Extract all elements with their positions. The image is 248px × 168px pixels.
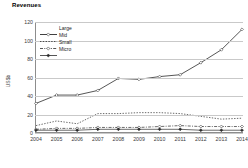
legend-item-mid[interactable]: Mid <box>40 31 92 38</box>
x-axis-tick: 2009 <box>133 136 145 142</box>
chart-container: Revenues 020406080100120 US$b 2004200520… <box>0 0 248 168</box>
gridline <box>35 22 243 23</box>
legend-swatch-icon <box>40 38 57 45</box>
legend-label: Mid <box>59 32 67 38</box>
y-axis-tick: 20 <box>5 112 33 118</box>
data-point-micro <box>158 128 161 131</box>
x-axis-tick: 2007 <box>92 136 104 142</box>
x-axis-tick: 2013 <box>216 136 228 142</box>
legend-item-large[interactable]: Large <box>40 24 92 31</box>
legend-item-micro[interactable]: Micro <box>40 45 92 52</box>
data-point-micro <box>138 128 141 131</box>
x-axis-tick: 2005 <box>51 136 63 142</box>
x-axis-tick: 2006 <box>71 136 83 142</box>
legend-swatch-icon <box>40 31 57 38</box>
x-axis-tick: 2012 <box>195 136 207 142</box>
legend-label: Small <box>59 39 72 45</box>
data-point-large <box>35 102 38 105</box>
x-axis-tick: 2004 <box>30 136 42 142</box>
y-axis-tick: 120 <box>5 19 33 25</box>
gridline <box>35 96 243 97</box>
legend-label: Large <box>59 25 72 31</box>
x-axis-tick: 2010 <box>154 136 166 142</box>
data-point-micro <box>55 129 58 132</box>
data-point-small <box>241 125 244 128</box>
data-point-micro <box>199 129 202 132</box>
chart-legend: LargeMidSmallMicro <box>40 24 92 52</box>
data-point-micro <box>117 128 120 131</box>
data-point-small <box>179 124 182 127</box>
y-axis-tick: 100 <box>5 38 33 44</box>
x-axis-tick: 2008 <box>113 136 125 142</box>
gridline <box>35 59 243 60</box>
data-point-micro <box>220 129 223 132</box>
legend-swatch-icon <box>40 24 57 31</box>
y-axis-tick: 0 <box>5 130 33 136</box>
gridline <box>35 115 243 116</box>
y-axis-title: US$b <box>5 66 11 96</box>
data-point-micro <box>96 128 99 131</box>
x-axis-tick-labels: 2004200520062007200820092010201120122013… <box>35 136 243 148</box>
data-point-small <box>220 125 223 128</box>
legend-item-small[interactable]: Small <box>40 38 92 45</box>
data-point-small <box>199 125 202 128</box>
y-axis-tick: 80 <box>5 56 33 62</box>
gridline <box>35 78 243 79</box>
data-point-micro <box>179 128 182 131</box>
legend-label: Micro <box>59 46 71 52</box>
x-axis-tick: 2014 <box>236 136 248 142</box>
x-axis-tick: 2011 <box>175 136 186 142</box>
data-point-micro <box>76 129 79 132</box>
data-point-micro <box>241 129 244 132</box>
legend-swatch-icon <box>40 45 57 52</box>
gridline <box>35 133 243 134</box>
